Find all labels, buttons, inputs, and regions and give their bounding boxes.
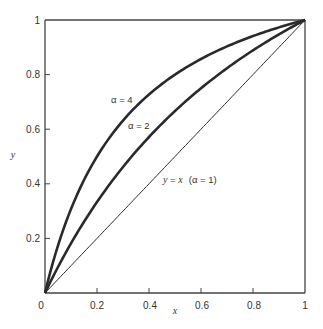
annotation-diag-eq: = [167,174,178,185]
annotation-alpha-2: α = 2 [128,120,150,131]
y-tick-label: 0.4 [26,178,40,189]
annotation-diag-x: x [177,174,183,185]
y-tick-label: 0.2 [26,233,40,244]
equilibrium-chart: 0 0.2 0.4 0.6 0.8 1 0.2 0.4 0.6 0.8 1 x … [0,0,323,329]
y-ticks [45,75,50,239]
annotation-diagonal: y = x(α = 1) [162,174,217,185]
annotation-alpha-4: α = 4 [111,94,133,105]
y-tick-label: 0.6 [26,124,40,135]
x-axis-label: x [172,305,178,316]
y-tick-label: 1 [34,15,40,26]
x-tick-label: 1 [302,300,308,311]
y-tick-label: 0.8 [26,69,40,80]
curve-alpha-1 [45,20,305,293]
curves [45,20,305,293]
origin-label: 0 [38,300,44,311]
annotation-diag-alpha: (α = 1) [189,174,217,185]
x-tick-label: 0.6 [195,300,209,311]
x-tick-label: 0.4 [143,300,157,311]
x-tick-label: 0.8 [247,300,261,311]
y-axis-label: y [10,149,16,160]
svg-text:y = x(α = 1): y = x(α = 1) [162,174,217,185]
x-tick-label: 0.2 [90,300,104,311]
x-ticks [97,288,253,293]
